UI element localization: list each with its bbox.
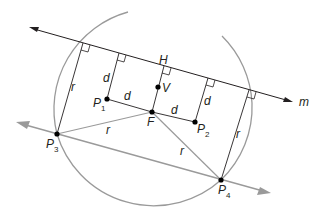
svg-text:P: P: [197, 122, 205, 136]
label-p4: P 4: [218, 183, 231, 200]
svg-text:2: 2: [205, 130, 210, 139]
arrowhead-left-gray: [16, 121, 30, 129]
label-r-p3-f: r: [106, 123, 111, 137]
line-p3-p4: [16, 121, 271, 195]
label-p1: P 1: [93, 96, 106, 113]
svg-text:3: 3: [54, 145, 59, 154]
parabola-diagram: m H V F P 1 P 2 P 3 P 4 d d d d r r r r: [0, 0, 323, 221]
svg-text:P: P: [93, 96, 101, 110]
svg-text:4: 4: [226, 191, 231, 200]
label-d-p1-f: d: [124, 89, 131, 103]
svg-text:P: P: [218, 183, 226, 197]
svg-text:1: 1: [101, 104, 106, 113]
point-p3: [54, 131, 59, 136]
svg-text:P: P: [46, 137, 54, 151]
label-v: V: [162, 81, 171, 95]
label-r-f-p4: r: [180, 144, 185, 158]
label-h: H: [159, 53, 168, 67]
label-p3: P 3: [46, 137, 59, 154]
label-d-p2-perp: d: [204, 94, 211, 108]
label-d-f-p2: d: [171, 103, 178, 117]
point-p4: [218, 177, 223, 182]
point-f: [149, 109, 154, 114]
point-v: [155, 84, 160, 89]
label-f: F: [147, 115, 155, 129]
label-p2: P 2: [197, 122, 210, 139]
arrowhead-right-gray: [257, 187, 271, 195]
arrowhead-left: [29, 27, 39, 32]
arrowhead-right: [283, 97, 293, 102]
label-d-p1-perp: d: [103, 71, 110, 85]
label-m: m: [299, 95, 309, 109]
point-p1: [104, 96, 109, 101]
label-r-p3-perp: r: [71, 80, 76, 94]
label-r-p4-perp: r: [236, 127, 241, 141]
